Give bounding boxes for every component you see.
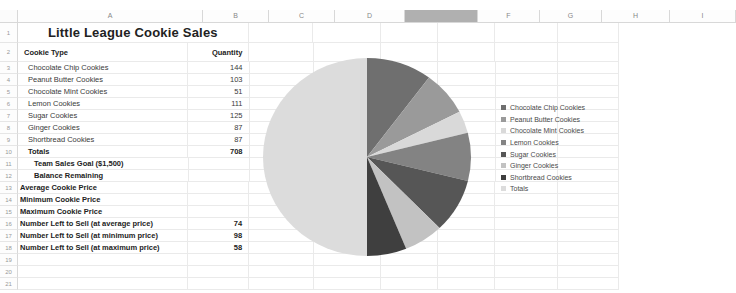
legend-item[interactable]: Shortbread Cookies	[501, 172, 585, 184]
legend-item[interactable]: Totals	[501, 183, 585, 195]
legend-item[interactable]: Chocolate Chip Cookies	[501, 102, 585, 114]
cell-item-qty[interactable]: 87	[188, 134, 249, 146]
cell-f1[interactable]	[381, 23, 438, 43]
cell-g20[interactable]	[438, 266, 495, 278]
cell-summary-label[interactable]: Team Sales Goal ($1,500)	[18, 158, 189, 170]
column-header-c[interactable]: C	[269, 10, 335, 23]
cell-item-label[interactable]: Peanut Butter Cookies	[18, 74, 188, 86]
cell-d20[interactable]	[249, 266, 314, 278]
cell-f20[interactable]	[381, 266, 438, 278]
legend-item[interactable]: Peanut Butter Cookies	[501, 114, 585, 126]
cell-item-qty[interactable]: 87	[188, 122, 249, 134]
column-header-a[interactable]: A	[18, 10, 203, 23]
cell-b21[interactable]	[188, 278, 249, 290]
row-header-8[interactable]: 8	[0, 122, 18, 134]
pie-chart-object[interactable]: Chocolate Chip CookiesPeanut Butter Cook…	[258, 46, 616, 261]
cell-summary-value[interactable]	[188, 182, 249, 194]
row-header-12[interactable]: 12	[0, 170, 18, 182]
cell-h20[interactable]	[495, 266, 558, 278]
row-header-14[interactable]: 14	[0, 194, 18, 206]
cell-totals-label[interactable]: Totals	[18, 146, 188, 158]
cell-g1[interactable]	[438, 23, 495, 43]
column-header-d[interactable]: D	[335, 10, 405, 23]
select-all-corner[interactable]	[0, 10, 18, 23]
cell-totals-qty[interactable]: 708	[188, 146, 249, 158]
row-header-4[interactable]: 4	[0, 74, 18, 86]
cell-item-label[interactable]: Ginger Cookies	[18, 122, 188, 134]
row-header-9[interactable]: 9	[0, 134, 18, 146]
cell-e1[interactable]	[313, 23, 380, 43]
cell-item-label[interactable]: Chocolate Mint Cookies	[18, 86, 188, 98]
cell-summary-label[interactable]: Number Left to Sell (at maximum price)	[18, 242, 188, 254]
cell-item-qty[interactable]: 125	[188, 110, 249, 122]
row-header-15[interactable]: 15	[0, 206, 18, 218]
cell-summary-label[interactable]: Maximum Cookie Price	[18, 206, 188, 218]
cell-item-label[interactable]: Lemon Cookies	[18, 98, 188, 110]
row-header-21[interactable]: 21	[0, 278, 18, 290]
cell-b19[interactable]	[188, 254, 249, 266]
cell-a19[interactable]	[18, 254, 188, 266]
row-header-10[interactable]: 10	[0, 146, 18, 158]
row-header-18[interactable]: 18	[0, 242, 18, 254]
cell-item-qty[interactable]: 144	[188, 62, 249, 74]
cell-item-label[interactable]: Shortbread Cookies	[18, 134, 188, 146]
row-header-6[interactable]: 6	[0, 98, 18, 110]
cell-h21[interactable]	[495, 278, 558, 290]
row-header-2[interactable]: 2	[0, 43, 18, 62]
row-header-17[interactable]: 17	[0, 230, 18, 242]
legend-item[interactable]: Sugar Cookies	[501, 148, 585, 160]
cell-item-label[interactable]: Sugar Cookies	[18, 110, 188, 122]
cell-d21[interactable]	[249, 278, 314, 290]
column-header-f[interactable]: F	[478, 10, 540, 23]
legend-item[interactable]: Chocolate Mint Cookies	[501, 125, 585, 137]
cell-b20[interactable]	[188, 266, 249, 278]
cell-summary-value[interactable]: 74	[188, 218, 249, 230]
cell-e21[interactable]	[314, 278, 381, 290]
row-header-13[interactable]: 13	[0, 182, 18, 194]
cell-summary-label[interactable]: Balance Remaining	[18, 170, 189, 182]
cell-summary-label[interactable]: Minimum Cookie Price	[18, 194, 188, 206]
column-header-i[interactable]: I	[670, 10, 736, 23]
cell-summary-value[interactable]: 58	[188, 242, 249, 254]
cell-summary-value[interactable]: 98	[188, 230, 249, 242]
cell-summary-label[interactable]: Average Cookie Price	[18, 182, 188, 194]
cell-e20[interactable]	[314, 266, 381, 278]
cell-g21[interactable]	[438, 278, 495, 290]
page-title[interactable]: Little League Cookie Sales	[18, 23, 249, 43]
cell-summary-value[interactable]	[189, 158, 250, 170]
row-header-5[interactable]: 5	[0, 86, 18, 98]
row-header-16[interactable]: 16	[0, 218, 18, 230]
pie-chart-graphic[interactable]	[262, 57, 472, 257]
header-cookie-type[interactable]: Cookie Type	[18, 43, 188, 62]
cell-a21[interactable]	[18, 278, 188, 290]
cell-summary-label[interactable]: Number Left to Sell (at minimum price)	[18, 230, 188, 242]
cell-d1[interactable]	[249, 23, 314, 43]
cell-h1[interactable]	[495, 23, 558, 43]
cell-item-qty[interactable]: 111	[188, 98, 249, 110]
row-header-11[interactable]: 11	[0, 158, 18, 170]
cell-a20[interactable]	[18, 266, 188, 278]
row-header-20[interactable]: 20	[0, 266, 18, 278]
row-header-1[interactable]: 1	[0, 23, 18, 43]
cell-f21[interactable]	[381, 278, 438, 290]
header-quantity[interactable]: Quantity	[188, 43, 249, 62]
cell-item-label[interactable]: Chocolate Chip Cookies	[18, 62, 188, 74]
legend-item[interactable]: Ginger Cookies	[501, 160, 585, 172]
row-header-7[interactable]: 7	[0, 110, 18, 122]
cell-summary-value[interactable]	[188, 206, 249, 218]
column-header-g[interactable]: G	[540, 10, 602, 23]
column-header-b[interactable]: B	[203, 10, 269, 23]
column-header-h[interactable]: H	[602, 10, 670, 23]
row-header-3[interactable]: 3	[0, 62, 18, 74]
column-header-e[interactable]: E	[405, 10, 478, 23]
cell-i21[interactable]	[558, 278, 619, 290]
cell-summary-value[interactable]	[188, 194, 249, 206]
cell-summary-value[interactable]	[189, 170, 250, 182]
cell-summary-label[interactable]: Number Left to Sell (at average price)	[18, 218, 188, 230]
cell-i1[interactable]	[558, 23, 619, 43]
cell-item-qty[interactable]: 51	[188, 86, 249, 98]
cell-item-qty[interactable]: 103	[188, 74, 249, 86]
pie-slice[interactable]	[263, 58, 367, 256]
cell-i20[interactable]	[558, 266, 619, 278]
row-header-19[interactable]: 19	[0, 254, 18, 266]
